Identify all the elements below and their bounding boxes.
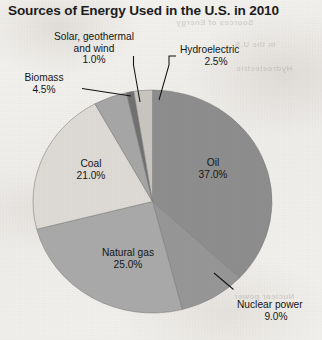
slice-label-natural-gas: Natural gas 25.0% — [80, 247, 176, 270]
slice-label-hydroelectric: Hydroelectric 2.5% — [180, 44, 290, 67]
slice-label-biomass: Biomass 4.5% — [8, 72, 80, 95]
slice-label-oil-value: 37.0% — [173, 169, 253, 181]
slice-label-nuclear-power-name: Nuclear power — [237, 299, 303, 310]
slice-label-natural-gas-value: 25.0% — [80, 259, 176, 271]
slice-label-oil: Oil 37.0% — [173, 157, 253, 180]
slice-label-solar-value: 1.0% — [30, 54, 158, 66]
slice-label-solar-geothermal-wind: Solar, geothermal and wind 1.0% — [30, 31, 158, 66]
slice-label-biomass-name: Biomass — [24, 72, 63, 83]
slice-label-natural-gas-name: Natural gas — [102, 247, 154, 258]
slice-label-hydroelectric-value: 2.5% — [180, 56, 252, 68]
pie-slices — [33, 90, 272, 313]
slice-label-oil-name: Oil — [207, 157, 219, 168]
leader-line-biomass — [82, 89, 131, 97]
slice-label-hydroelectric-name: Hydroelectric — [180, 44, 239, 55]
slice-label-coal: Coal 21.0% — [51, 158, 131, 181]
slice-label-solar-name-line1: Solar, geothermal — [54, 31, 134, 42]
slice-label-biomass-value: 4.5% — [8, 84, 80, 96]
slice-label-nuclear-power-value: 9.0% — [237, 311, 315, 323]
slice-label-nuclear-power: Nuclear power 9.0% — [237, 299, 322, 322]
slice-label-coal-value: 21.0% — [51, 170, 131, 182]
slice-label-coal-name: Coal — [81, 158, 102, 169]
slice-label-solar-name-line2: and wind — [30, 43, 158, 55]
